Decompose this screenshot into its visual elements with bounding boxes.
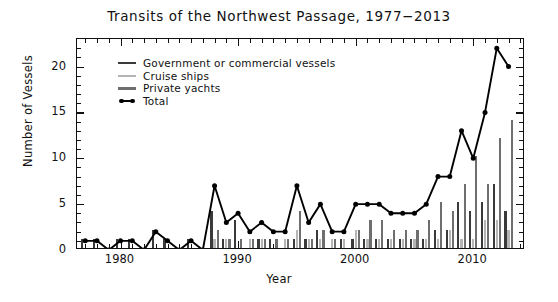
total-marker [400,211,405,216]
x-tick-label: 2010 [458,252,487,266]
total-marker [388,211,393,216]
total-marker [165,238,170,243]
total-marker [506,64,511,69]
total-marker [294,183,299,188]
y-tick-label: 15 [51,104,66,118]
total-marker [365,202,370,207]
total-marker [283,229,288,234]
x-tick-label: 2000 [340,252,369,266]
legend-swatch-icon [118,70,136,82]
total-marker [424,202,429,207]
legend-item: Government or commercial vessels [118,57,335,70]
total-marker [130,238,135,243]
total-marker [471,156,476,161]
x-tick-label: 1980 [105,252,134,266]
x-axis-title: Year [0,272,558,286]
total-marker [118,238,123,243]
total-marker [318,202,323,207]
legend-label: Government or commercial vessels [143,57,335,70]
x-tick-label: 1990 [222,252,251,266]
legend-swatch-icon [118,82,136,94]
legend-swatch-icon [118,95,136,107]
total-marker [224,220,229,225]
total-marker [377,202,382,207]
total-marker [330,229,335,234]
total-marker [153,229,158,234]
y-tick-label: 10 [51,150,66,164]
legend-item: Cruise ships [118,70,335,83]
total-marker [447,174,452,179]
total-marker [412,211,417,216]
total-marker [212,183,217,188]
total-marker [341,229,346,234]
total-marker [236,211,241,216]
total-marker [259,220,264,225]
x-axis-tick-labels: 1980199020002010 [76,252,524,270]
chart-figure: Transits of the Northwest Passage, 1977−… [0,0,558,302]
legend-label: Cruise ships [143,70,209,83]
y-tick-label: 20 [51,59,66,73]
legend-label: Private yachts [143,82,220,95]
legend-item: Private yachts [118,82,335,95]
total-marker [353,202,358,207]
total-marker [494,46,499,51]
legend-item: Total [118,95,335,108]
total-marker [271,229,276,234]
total-marker [247,229,252,234]
legend-swatch-icon [118,57,136,69]
legend-label: Total [143,95,169,108]
total-marker [435,174,440,179]
total-marker [94,238,99,243]
chart-legend: Government or commercial vesselsCruise s… [118,57,335,107]
total-marker [189,238,194,243]
y-tick-label: 5 [59,196,66,210]
chart-title: Transits of the Northwest Passage, 1977−… [0,8,558,24]
total-marker [483,110,488,115]
total-marker [459,128,464,133]
y-tick-label: 0 [59,242,66,256]
total-marker [306,220,311,225]
total-marker [83,238,88,243]
y-axis-tick-labels: 05101520 [0,38,76,249]
